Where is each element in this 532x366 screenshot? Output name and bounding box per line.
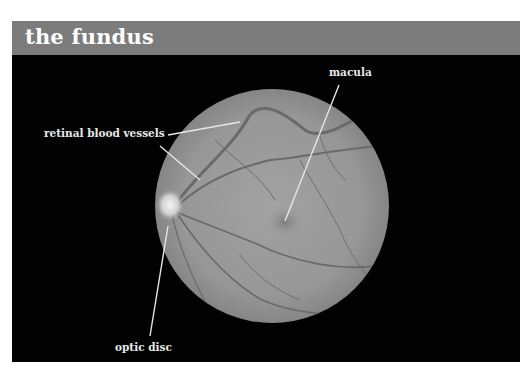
label-optic-disc: optic disc <box>115 341 172 353</box>
label-retinal-blood-vessels: retinal blood vessels <box>44 127 165 139</box>
label-macula: macula <box>329 66 372 78</box>
fundus-disc <box>155 89 389 323</box>
optic-disc-spot <box>156 189 184 221</box>
optic-disc-leader-line <box>150 226 168 336</box>
fundus-illustration <box>0 0 532 366</box>
